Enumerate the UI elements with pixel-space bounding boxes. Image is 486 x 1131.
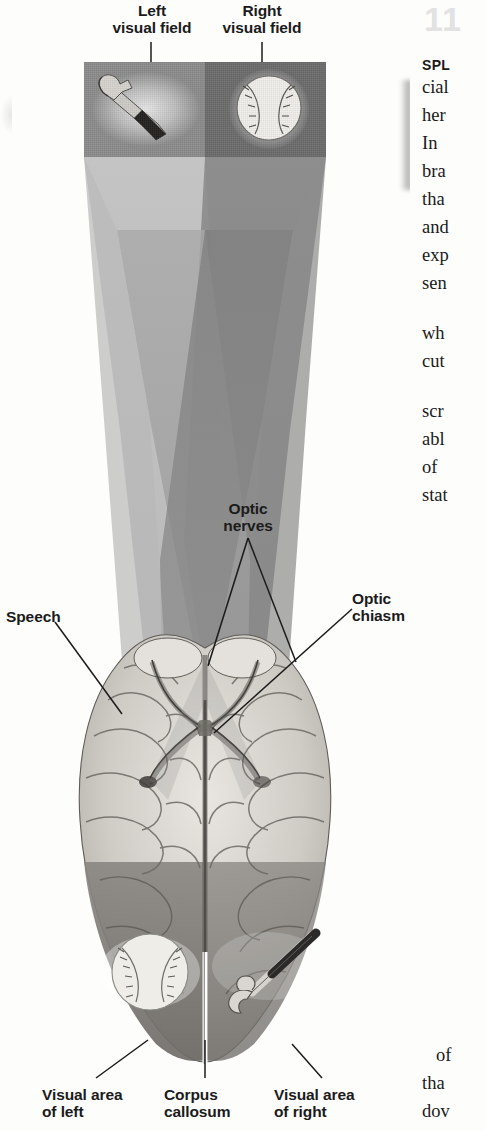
body-line: dov [422,1102,450,1121]
textbook-page: Left visual field Right visual field Opt… [0,0,486,1131]
label-visual-area-of-right: Visual area of right [274,1086,394,1121]
body-line: of [436,1046,451,1065]
scan-edge-artifact-left [0,95,12,135]
label-optic-chiasm: Optic chiasm [352,590,412,625]
body-text-column: 11 SPL cial her In bra tha and exp sen w… [410,0,486,1131]
chapter-number: 11 [424,2,462,36]
body-line: cut [422,352,445,371]
body-line: exp [422,246,449,265]
body-line: wh [422,324,445,343]
visual-field-panels [84,62,326,157]
label-left-visual-field: Left visual field [104,2,200,37]
body-heading: SPL [422,58,450,72]
body-line: sen [422,274,447,293]
hammer-icon [84,62,205,157]
body-line: of [422,458,442,477]
baseball-icon [205,62,326,157]
body-line: bra [422,162,446,181]
label-right-visual-field: Right visual field [214,2,310,37]
body-line: abl [422,430,445,449]
body-line: her [422,106,446,125]
body-line: tha [422,1074,445,1093]
left-visual-field-panel [84,62,205,157]
body-line: scr [422,402,444,421]
split-brain-figure: Left visual field Right visual field Opt… [0,0,410,1131]
body-line: cial [422,78,449,97]
label-speech: Speech [6,608,96,625]
body-line: stat [422,486,448,505]
label-corpus-callosum: Corpus callosum [164,1086,260,1121]
label-visual-area-of-left: Visual area of left [42,1086,152,1121]
body-line: tha [422,190,445,209]
visual-projection-cones [0,0,410,1131]
right-visual-field-panel [205,62,326,157]
body-line: and [422,218,449,237]
body-line: In [422,134,442,153]
label-optic-nerves: Optic nerves [198,500,298,535]
